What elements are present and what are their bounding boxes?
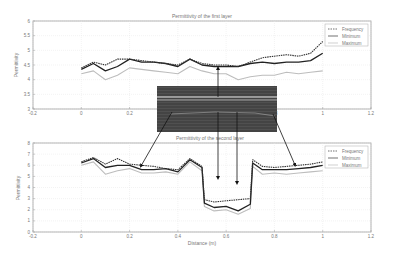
x-tick-label: 0.6 xyxy=(223,234,230,239)
legend-minimum: Minimum xyxy=(342,156,361,161)
x-tick-label: -0.2 xyxy=(29,111,37,116)
y-tick-label: 5 xyxy=(27,48,30,53)
y-tick-label: 3 xyxy=(27,196,30,201)
x-tick-label: 0.2 xyxy=(126,111,133,116)
x-tick-label: 1 xyxy=(321,111,324,116)
bottom-title: Permittivity of the second layer xyxy=(176,135,244,141)
x-tick-label: -0.2 xyxy=(29,234,37,239)
legend-frequency: Frequency xyxy=(342,149,364,154)
bottom-legend: Frequency Minimum Maximum xyxy=(325,146,368,168)
y-tick-label: 1 xyxy=(27,218,30,223)
x-tick-label: 1.2 xyxy=(368,234,375,239)
legend-minimum: Minimum xyxy=(342,34,361,39)
y-tick-label: 4.5 xyxy=(24,63,31,68)
x-tick-label: 0 xyxy=(80,234,83,239)
top-ylabel: Permittivity xyxy=(13,52,19,77)
bottom-xlabel: Distance (m) xyxy=(188,240,217,246)
x-tick-label: 0.4 xyxy=(175,234,182,239)
y-tick-label: 7 xyxy=(27,152,30,157)
legend-maximum: Maximum xyxy=(342,41,362,46)
y-tick-label: 3.5 xyxy=(24,92,31,97)
y-tick-label: 6 xyxy=(27,163,30,168)
legend-frequency: Frequency xyxy=(342,27,364,32)
y-tick-label: 2 xyxy=(27,207,30,212)
top-title: Permittivity of the first layer xyxy=(172,13,232,19)
y-tick-label: 8 xyxy=(27,141,30,146)
legend-maximum: Maximum xyxy=(342,163,362,168)
x-tick-label: 1.2 xyxy=(368,111,375,116)
figure: 33.544.555.56-0.200.20.40.60.811.2 Permi… xyxy=(0,0,393,253)
x-tick-label: 0.2 xyxy=(126,234,133,239)
bottom-axes: 012345678-0.200.20.40.60.811.2 Permittiv… xyxy=(15,135,375,246)
bottom-ylabel: Permittivity xyxy=(15,175,21,200)
x-tick-label: 0.8 xyxy=(271,234,278,239)
y-tick-label: 4 xyxy=(27,185,30,190)
layer-inset-image xyxy=(157,86,277,132)
x-tick-label: 1 xyxy=(321,234,324,239)
y-tick-label: 4 xyxy=(27,77,30,82)
y-tick-label: 5.5 xyxy=(24,33,31,38)
top-legend: Frequency Minimum Maximum xyxy=(325,24,368,46)
y-tick-label: 6 xyxy=(27,19,30,24)
x-tick-label: 0 xyxy=(80,111,83,116)
y-tick-label: 5 xyxy=(27,174,30,179)
